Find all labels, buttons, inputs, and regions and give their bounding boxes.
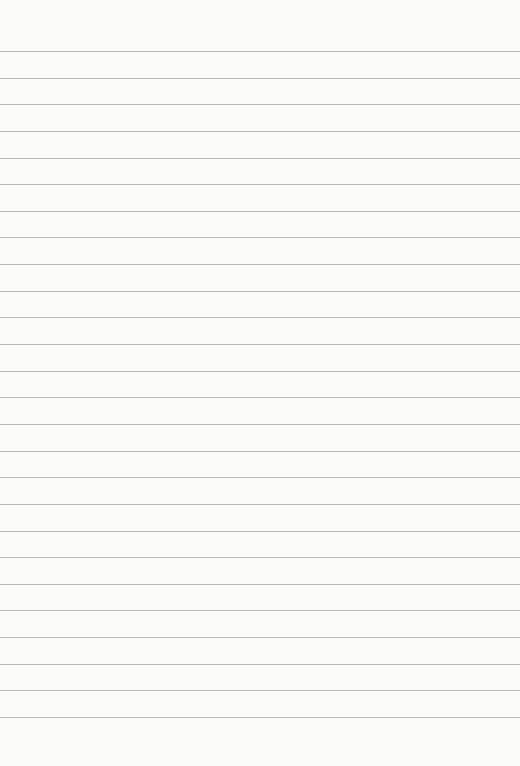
ruled-line bbox=[0, 557, 520, 558]
ruled-line bbox=[0, 690, 520, 691]
ruled-line bbox=[0, 317, 520, 318]
ruled-line bbox=[0, 504, 520, 505]
ruled-line bbox=[0, 104, 520, 105]
ruled-line bbox=[0, 717, 520, 718]
ruled-line bbox=[0, 237, 520, 238]
ruled-line bbox=[0, 397, 520, 398]
ruled-line bbox=[0, 637, 520, 638]
ruled-line bbox=[0, 131, 520, 132]
ruled-line bbox=[0, 664, 520, 665]
ruled-line bbox=[0, 531, 520, 532]
ruled-line bbox=[0, 371, 520, 372]
ruled-line bbox=[0, 291, 520, 292]
ruled-line bbox=[0, 211, 520, 212]
ruled-line bbox=[0, 264, 520, 265]
ruled-line bbox=[0, 51, 520, 52]
ruled-line bbox=[0, 158, 520, 159]
ruled-line bbox=[0, 610, 520, 611]
ruled-line bbox=[0, 424, 520, 425]
lined-paper-sheet bbox=[0, 0, 520, 766]
ruled-line bbox=[0, 344, 520, 345]
ruled-line bbox=[0, 451, 520, 452]
ruled-line bbox=[0, 184, 520, 185]
ruled-line bbox=[0, 78, 520, 79]
ruled-line bbox=[0, 584, 520, 585]
ruled-line bbox=[0, 477, 520, 478]
